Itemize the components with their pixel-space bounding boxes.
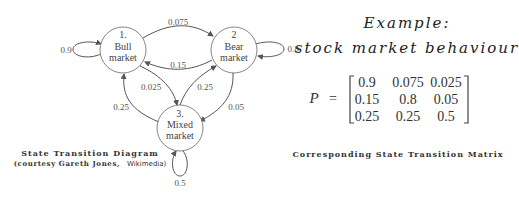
matrix-cell-r1c1: 0.9 <box>358 75 376 90</box>
state-transition-figure: 1. Bull market 2 Bear market 3. Mixed ma… <box>0 0 519 197</box>
edge-bull-self <box>73 42 101 57</box>
matrix-left-bracket <box>350 76 354 123</box>
node-bull-number: 1. <box>119 29 127 40</box>
matrix-cell-r2c2: 0.8 <box>399 92 417 107</box>
diagram-caption-title: State Transition Diagram <box>21 148 159 158</box>
node-bull-label-2: market <box>109 52 137 63</box>
node-bear: 2 Bear market <box>211 27 257 73</box>
credit-source: Wikimedia) <box>127 160 167 168</box>
label-mixed-self: 0.5 <box>174 178 186 188</box>
label-bull-to-mixed: 0.025 <box>141 82 162 92</box>
matrix-symbol: P <box>308 90 318 106</box>
label-mixed-to-bear: 0.25 <box>197 82 213 92</box>
node-bear-label-2: market <box>220 52 248 63</box>
node-bear-number: 2 <box>232 29 237 40</box>
matrix-caption: Corresponding State Transition Matrix <box>292 149 503 159</box>
label-mixed-to-bull: 0.25 <box>113 102 129 112</box>
matrix-cell-r3c3: 0.5 <box>437 109 455 124</box>
example-heading: Example: <box>363 14 451 32</box>
transition-matrix: P = 0.9 0.075 0.025 0.15 0.8 0.05 0.25 0… <box>308 75 468 124</box>
matrix-cell-r2c1: 0.15 <box>355 92 380 107</box>
label-bear-to-bull: 0.15 <box>170 60 186 70</box>
edge-bear-self <box>256 42 284 57</box>
node-mixed-label-2: market <box>166 130 194 141</box>
matrix-cell-r3c1: 0.25 <box>355 109 380 124</box>
example-subheading: stock market behaviour <box>295 39 519 57</box>
matrix-cell-r2c3: 0.05 <box>434 92 459 107</box>
edge-bull-to-bear <box>143 26 213 38</box>
node-bear-label-1: Bear <box>225 41 245 52</box>
credit-prefix: (courtesy Gareth Jones, <box>14 159 120 168</box>
label-bear-to-mixed: 0.05 <box>228 102 244 112</box>
matrix-cell-r1c3: 0.025 <box>430 75 462 90</box>
node-mixed-number: 3. <box>176 108 184 119</box>
label-bull-self: 0.9 <box>60 45 72 55</box>
edge-mixed-self <box>173 151 188 176</box>
node-bull-label-1: Bull <box>114 41 131 52</box>
node-mixed: 3. Mixed market <box>157 105 203 151</box>
label-bull-to-bear: 0.075 <box>168 17 189 27</box>
matrix-equals: = <box>329 91 337 106</box>
matrix-right-bracket <box>464 76 468 123</box>
matrix-cell-r1c2: 0.075 <box>392 75 424 90</box>
matrix-cell-r3c2: 0.25 <box>396 109 421 124</box>
node-bull: 1. Bull market <box>100 27 146 73</box>
node-mixed-label-1: Mixed <box>167 119 193 130</box>
edge-bear-to-mixed <box>200 73 233 121</box>
